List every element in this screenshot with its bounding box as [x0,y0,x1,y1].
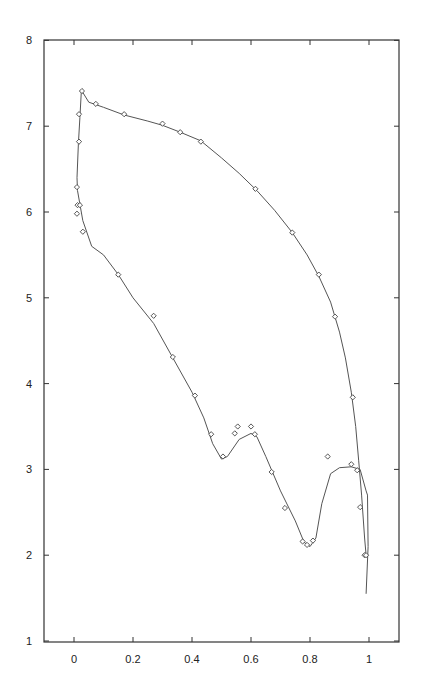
axis-tick-labels: 00.20.40.60.8112345678 [26,34,372,665]
data-point-diamond [349,462,354,467]
data-point-diamond [76,139,81,144]
data-point-diamond [160,121,165,126]
data-point-diamond [235,424,240,429]
y-tick-label: 3 [26,463,32,475]
y-tick-label: 2 [26,549,32,561]
data-point-diamond [209,432,214,437]
data-point-diamond [74,185,79,190]
y-tick-label: 8 [26,34,32,46]
x-tick-label: 0 [71,653,77,665]
x-tick-label: 0.4 [184,653,199,665]
data-point-diamond [252,432,257,437]
upper-fit-curve [81,90,366,555]
data-point-diamond [350,395,355,400]
data-point-diamond [178,130,183,135]
data-point-diamond [122,112,127,117]
data-point-diamond [325,454,330,459]
x-tick-label: 0.8 [302,653,317,665]
data-points [74,88,368,557]
data-point-diamond [76,112,81,117]
data-point-diamond [300,539,305,544]
data-point-diamond [79,88,84,93]
y-tick-label: 1 [26,635,32,647]
y-tick-label: 4 [26,378,32,390]
x-tick-label: 0.6 [243,653,258,665]
x-tick-label: 0.2 [125,653,140,665]
data-point-diamond [282,505,287,510]
data-point-diamond [248,424,253,429]
y-tick-label: 7 [26,120,32,132]
data-point-diamond [74,211,79,216]
axis-ticks [44,40,399,642]
data-point-diamond [80,229,85,234]
y-tick-label: 5 [26,292,32,304]
data-point-diamond [332,314,337,319]
lower-fit-curve [77,90,368,594]
fit-curves [77,90,368,594]
data-point-diamond [232,431,237,436]
data-point-diamond [151,313,156,318]
y-tick-label: 6 [26,206,32,218]
plot-frame [44,40,399,642]
x-tick-label: 1 [366,653,372,665]
chart: 00.20.40.60.8112345678 [0,0,422,689]
